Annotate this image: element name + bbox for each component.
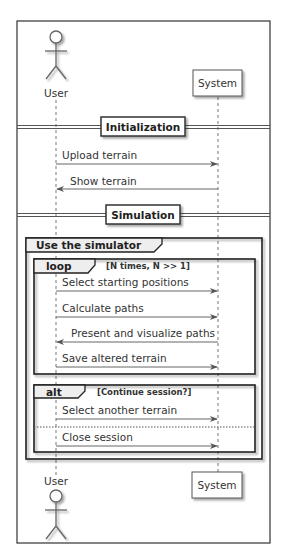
group-alt-label: alt xyxy=(46,386,62,398)
message-label: Upload terrain xyxy=(62,149,137,161)
divider-initialization-label: Initialization xyxy=(106,121,180,133)
group-use-the-simulator-label: Use the simulator xyxy=(36,239,142,251)
message-label: Calculate paths xyxy=(62,302,144,314)
message-label: Select starting positions xyxy=(62,276,189,288)
message-label: Close session xyxy=(62,431,133,443)
message-label: Show terrain xyxy=(70,175,137,187)
group-loop-guard: [N times, N >> 1] xyxy=(106,261,190,271)
sequence-diagram: User System Initialization Upload terrai… xyxy=(0,0,288,558)
message-label: Present and visualize paths xyxy=(71,327,215,339)
group-loop-label: loop xyxy=(46,260,72,272)
message-label: Select another terrain xyxy=(62,404,177,416)
message-label: Save altered terrain xyxy=(62,352,167,364)
user-label-top: User xyxy=(44,87,69,99)
divider-simulation-label: Simulation xyxy=(111,209,175,221)
system-label-bottom: System xyxy=(197,479,236,491)
group-alt-guard: [Continue session?] xyxy=(97,387,191,397)
user-label-bottom: User xyxy=(44,475,69,487)
system-label-top: System xyxy=(198,77,237,89)
